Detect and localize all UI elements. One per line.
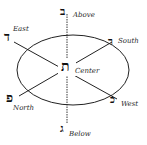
directional-diagram: ב Above ג Below ד East כ West פ North ר … [0, 0, 147, 145]
below-letter: ג [60, 123, 64, 134]
above-label: Above [73, 12, 95, 19]
center-label: Center [75, 68, 99, 75]
west-letter: כ [110, 95, 115, 105]
south-label: South [118, 38, 139, 45]
east-letter: ד [4, 31, 10, 43]
west-label: West [121, 101, 138, 108]
center-letter: ת [61, 59, 70, 73]
south-letter: ר [108, 37, 113, 47]
north-label: North [13, 105, 34, 112]
above-letter: ב [60, 6, 65, 17]
below-label: Below [69, 131, 91, 138]
north-letter: פ [6, 91, 13, 104]
east-label: East [13, 26, 29, 33]
diagram-lines [0, 0, 147, 145]
